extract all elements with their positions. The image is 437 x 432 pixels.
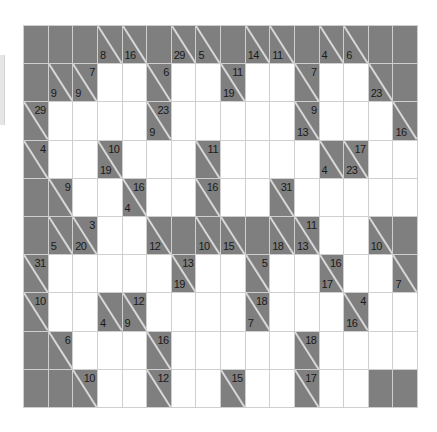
entry-cell[interactable] (49, 255, 73, 292)
entry-cell[interactable] (98, 102, 122, 139)
entry-cell[interactable] (73, 293, 97, 330)
entry-cell[interactable] (369, 332, 393, 369)
entry-cell[interactable] (172, 64, 196, 101)
entry-cell[interactable] (393, 179, 417, 216)
entry-cell[interactable] (246, 370, 270, 407)
entry-cell[interactable] (73, 141, 97, 178)
entry-cell[interactable] (295, 293, 319, 330)
entry-cell[interactable] (369, 293, 393, 330)
entry-cell[interactable] (320, 102, 344, 139)
across-sum: 16 (158, 335, 169, 346)
entry-cell[interactable] (393, 293, 417, 330)
entry-cell[interactable] (320, 179, 344, 216)
entry-cell[interactable] (221, 255, 245, 292)
entry-cell[interactable] (172, 102, 196, 139)
entry-cell[interactable] (344, 332, 368, 369)
entry-cell[interactable] (98, 332, 122, 369)
entry-cell[interactable] (246, 179, 270, 216)
entry-cell[interactable] (344, 217, 368, 254)
down-sum: 10 (371, 241, 382, 252)
entry-cell[interactable] (270, 370, 294, 407)
entry-cell[interactable] (270, 255, 294, 292)
entry-cell[interactable] (73, 102, 97, 139)
entry-cell[interactable] (98, 179, 122, 216)
entry-cell[interactable] (221, 141, 245, 178)
entry-cell[interactable] (147, 255, 171, 292)
entry-cell[interactable] (221, 332, 245, 369)
entry-cell[interactable] (172, 332, 196, 369)
entry-cell[interactable] (123, 217, 147, 254)
clue-cell: 18 (295, 332, 319, 369)
entry-cell[interactable] (73, 332, 97, 369)
entry-cell[interactable] (172, 179, 196, 216)
down-sum: 5 (51, 241, 57, 252)
entry-cell[interactable] (147, 179, 171, 216)
entry-cell[interactable] (270, 102, 294, 139)
entry-cell[interactable] (295, 141, 319, 178)
entry-cell[interactable] (147, 293, 171, 330)
entry-cell[interactable] (98, 370, 122, 407)
entry-cell[interactable] (123, 102, 147, 139)
entry-cell[interactable] (344, 370, 368, 407)
clue-cell: 11 (270, 26, 294, 63)
entry-cell[interactable] (123, 64, 147, 101)
entry-cell[interactable] (344, 102, 368, 139)
entry-cell[interactable] (147, 141, 171, 178)
entry-cell[interactable] (49, 293, 73, 330)
entry-cell[interactable] (320, 217, 344, 254)
entry-cell[interactable] (295, 179, 319, 216)
entry-cell[interactable] (49, 141, 73, 178)
entry-cell[interactable] (196, 332, 220, 369)
entry-cell[interactable] (221, 179, 245, 216)
entry-cell[interactable] (196, 293, 220, 330)
entry-cell[interactable] (393, 332, 417, 369)
entry-cell[interactable] (246, 332, 270, 369)
down-sum: 9 (125, 318, 131, 329)
entry-cell[interactable] (393, 141, 417, 178)
entry-cell[interactable] (73, 255, 97, 292)
block-cell (24, 26, 48, 63)
entry-cell[interactable] (196, 255, 220, 292)
clue-cell: 6 (147, 64, 171, 101)
clue-cell: 8 (98, 26, 122, 63)
entry-cell[interactable] (123, 332, 147, 369)
entry-cell[interactable] (344, 64, 368, 101)
entry-cell[interactable] (270, 293, 294, 330)
entry-cell[interactable] (246, 141, 270, 178)
entry-cell[interactable] (49, 102, 73, 139)
entry-cell[interactable] (320, 332, 344, 369)
entry-cell[interactable] (221, 102, 245, 139)
entry-cell[interactable] (98, 217, 122, 254)
entry-cell[interactable] (172, 370, 196, 407)
entry-cell[interactable] (270, 64, 294, 101)
entry-cell[interactable] (98, 255, 122, 292)
entry-cell[interactable] (196, 102, 220, 139)
entry-cell[interactable] (369, 255, 393, 292)
entry-cell[interactable] (295, 255, 319, 292)
entry-cell[interactable] (196, 64, 220, 101)
side-panel-handle[interactable] (0, 55, 5, 125)
entry-cell[interactable] (123, 370, 147, 407)
entry-cell[interactable] (320, 293, 344, 330)
entry-cell[interactable] (196, 370, 220, 407)
block-cell (49, 370, 73, 407)
entry-cell[interactable] (172, 293, 196, 330)
entry-cell[interactable] (270, 141, 294, 178)
entry-cell[interactable] (246, 64, 270, 101)
entry-cell[interactable] (320, 370, 344, 407)
entry-cell[interactable] (369, 141, 393, 178)
entry-cell[interactable] (369, 179, 393, 216)
entry-cell[interactable] (172, 141, 196, 178)
entry-cell[interactable] (320, 64, 344, 101)
entry-cell[interactable] (73, 179, 97, 216)
entry-cell[interactable] (344, 179, 368, 216)
entry-cell[interactable] (369, 102, 393, 139)
entry-cell[interactable] (270, 332, 294, 369)
entry-cell[interactable] (221, 293, 245, 330)
across-sum: 17 (355, 144, 366, 155)
entry-cell[interactable] (344, 255, 368, 292)
entry-cell[interactable] (246, 102, 270, 139)
entry-cell[interactable] (98, 64, 122, 101)
entry-cell[interactable] (123, 141, 147, 178)
entry-cell[interactable] (123, 255, 147, 292)
